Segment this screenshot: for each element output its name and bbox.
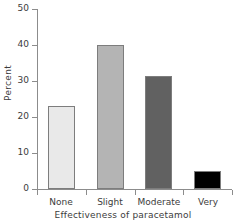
x-tick-0 xyxy=(37,190,38,195)
x-tick-1 xyxy=(86,190,87,195)
y-tick-10 xyxy=(32,153,37,154)
x-tick-3 xyxy=(183,190,184,195)
y-tick-40 xyxy=(32,45,37,46)
y-tick-label-0: 0 xyxy=(9,184,29,193)
x-tick-label-very: Very xyxy=(178,197,238,207)
bar-moderate xyxy=(145,76,172,189)
bar-none xyxy=(48,106,75,189)
y-tick-30 xyxy=(32,81,37,82)
bar-very xyxy=(194,171,221,189)
bar-slight xyxy=(97,45,124,189)
x-tick-4 xyxy=(232,190,233,195)
x-axis-title: Effectiveness of paracetamol xyxy=(0,210,246,220)
bar-chart: Percent 50 40 30 20 10 0 None Slight Mod… xyxy=(0,0,246,224)
y-tick-20 xyxy=(32,117,37,118)
y-tick-label-30: 30 xyxy=(9,76,29,85)
y-axis-line xyxy=(37,9,38,190)
y-tick-label-40: 40 xyxy=(9,40,29,49)
x-tick-2 xyxy=(135,190,136,195)
y-tick-label-10: 10 xyxy=(9,148,29,157)
y-tick-label-50: 50 xyxy=(9,4,29,13)
y-tick-50 xyxy=(32,9,37,10)
y-tick-label-20: 20 xyxy=(9,112,29,121)
